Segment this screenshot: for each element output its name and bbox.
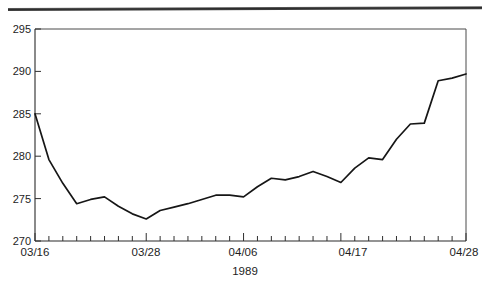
y-tick-label-285: 285 [13,108,31,120]
y-tick-label-290: 290 [13,65,31,77]
y-axis-labels: 295 290 285 280 275 270 [13,23,31,247]
x-tick-label-1: 03/28 [132,246,161,258]
y-tick-label-295: 295 [13,23,31,35]
y-axis-ticks [35,29,41,241]
series-line-index [35,74,466,219]
x-axis-ticks [35,233,466,241]
y-tick-label-275: 275 [13,193,31,205]
x-tick-label-4: 04/28 [450,246,479,258]
line-chart: 295 290 285 280 275 270 03/16 03/28 04/0… [0,0,490,288]
figure-container: 295 290 285 280 275 270 03/16 03/28 04/0… [0,0,490,288]
x-tick-label-0: 03/16 [21,246,50,258]
x-axis-title: 1989 [232,265,258,277]
y-tick-label-280: 280 [13,150,31,162]
x-tick-label-3: 04/17 [339,246,368,258]
x-axis-labels: 03/16 03/28 04/06 04/17 04/28 [21,246,479,258]
x-tick-label-2: 04/06 [229,246,258,258]
